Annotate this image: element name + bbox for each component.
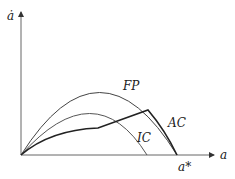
y-axis-label: ȧ xyxy=(7,9,14,23)
fp-curve xyxy=(21,93,177,156)
fp-label: FP xyxy=(122,79,140,93)
x-axis-label: a xyxy=(220,148,227,162)
phase-diagram: ȧ a a* FP AC IC xyxy=(0,0,235,179)
a-star-label: a* xyxy=(178,160,191,174)
ic-curve xyxy=(21,114,147,156)
ac-label: AC xyxy=(167,116,186,130)
ic-label: IC xyxy=(136,131,151,145)
